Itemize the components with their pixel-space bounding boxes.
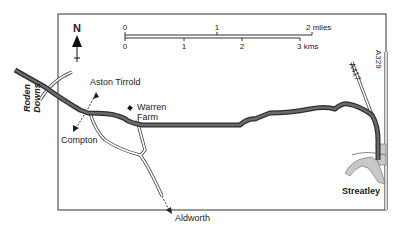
svg-text:1: 1 xyxy=(215,23,220,32)
svg-text:0: 0 xyxy=(123,23,128,32)
route-map: N 0 1 2 miles 0 1 2 3 kms xyxy=(0,0,411,246)
a329-road-label: A329 xyxy=(374,50,383,69)
warren-farm-marker-icon xyxy=(127,105,133,111)
arrow-aston-icon xyxy=(93,92,99,99)
svg-text:N: N xyxy=(73,22,81,34)
aston-tirrold-label: Aston Tirrold xyxy=(90,77,141,87)
streatley-label: Streatley xyxy=(342,186,380,196)
svg-text:Downs: Downs xyxy=(32,83,42,113)
svg-text:0: 0 xyxy=(123,42,128,51)
warren-farm-label: Warren xyxy=(137,102,166,112)
arrow-aldworth-icon xyxy=(166,207,172,214)
arrow-compton-icon xyxy=(73,125,79,132)
svg-text:Roden: Roden xyxy=(22,84,32,113)
svg-text:2: 2 xyxy=(240,42,245,51)
svg-text:3 kms: 3 kms xyxy=(297,42,318,51)
a417-road-label: A417 xyxy=(347,61,363,82)
aldworth-label: Aldworth xyxy=(175,213,210,223)
roden-downs-label: Roden Downs xyxy=(22,83,42,113)
svg-text:2 miles: 2 miles xyxy=(306,23,331,32)
minor-roads xyxy=(40,52,386,210)
walking-route xyxy=(15,70,378,160)
svg-text:1: 1 xyxy=(182,42,187,51)
scale-bar: 0 1 2 miles 0 1 2 3 kms xyxy=(123,23,332,51)
warren-farm-label-2: Farm xyxy=(137,112,158,122)
north-arrow-icon: N xyxy=(72,22,82,62)
compton-label: Compton xyxy=(61,135,98,145)
